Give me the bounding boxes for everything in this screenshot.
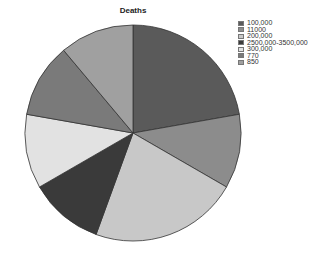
legend-swatch <box>238 27 244 32</box>
legend-swatch <box>238 47 244 52</box>
legend-swatch <box>238 40 244 45</box>
legend-label: 850 <box>247 59 259 66</box>
legend-swatch <box>238 34 244 39</box>
legend-swatch <box>238 53 244 58</box>
legend-swatch <box>238 60 244 65</box>
legend-item: 850 <box>238 59 308 66</box>
legend-swatch <box>238 21 244 26</box>
legend: 100,000 11000 200,000 2500,000-3500,000 … <box>238 20 308 66</box>
